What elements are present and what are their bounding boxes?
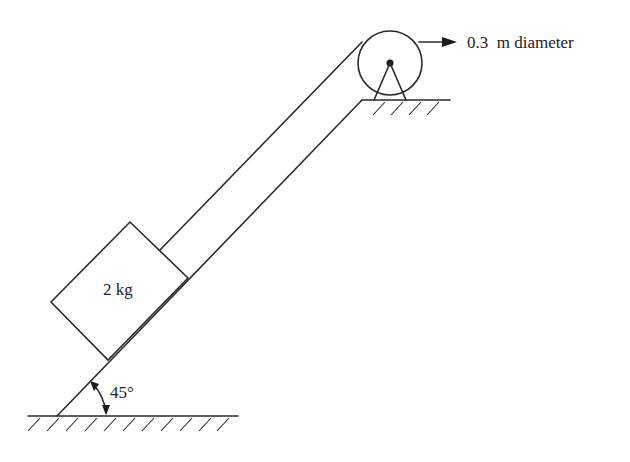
ground-hatching bbox=[28, 418, 229, 431]
pulley-diameter-label: 0.3 m diameter bbox=[467, 33, 574, 52]
platform-hatching bbox=[373, 102, 439, 115]
angle-arrow-bottom bbox=[102, 405, 110, 415]
ground bbox=[28, 416, 238, 431]
pulley-platform bbox=[362, 100, 450, 115]
block-mass-label: 2 kg bbox=[103, 280, 133, 299]
angle-indicator bbox=[90, 381, 110, 415]
pulley bbox=[358, 31, 422, 100]
incline-angle-label: 45° bbox=[110, 383, 134, 402]
incline-surface bbox=[57, 100, 362, 416]
rope bbox=[160, 42, 362, 250]
diameter-arrow bbox=[419, 37, 457, 47]
diagram-canvas: 0.3 m diameter 2 kg 45° bbox=[0, 0, 630, 462]
